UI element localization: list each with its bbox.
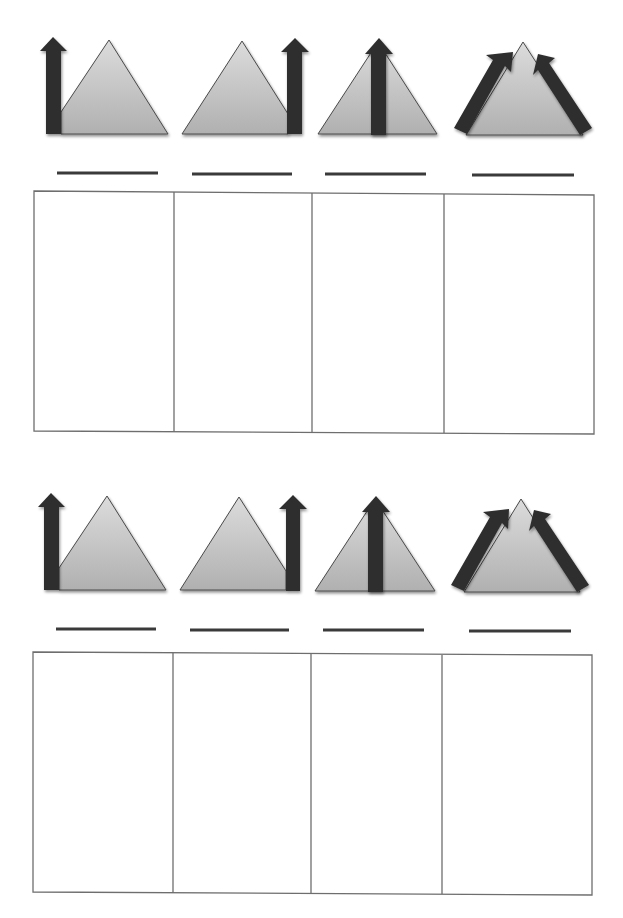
answer-box-3[interactable] [312,655,441,894]
answer-blanks [57,173,574,175]
answer-box-4[interactable] [445,195,593,433]
diagram-arrow-center [318,38,437,135]
diagram-arrow-center [315,496,435,592]
answer-box-2[interactable] [174,654,310,893]
mountain-triangle-icon [59,496,166,590]
answer-box-grid [33,652,592,895]
answer-box-grid [34,191,594,434]
diagram-arrows-both-slopes [454,42,592,135]
diagram-arrow-left-side [40,37,168,134]
mountain-triangle-icon [182,41,288,134]
diagram-arrows-both-slopes [451,499,589,592]
diagram-arrow-right-side [182,38,309,134]
upper-section [34,37,594,434]
worksheet-drawing [0,0,623,918]
mountain-triangle-icon [180,497,286,590]
answer-blanks [56,629,571,631]
worksheet-page [0,0,623,918]
lower-section [33,493,592,895]
answer-box-3[interactable] [313,194,443,433]
diagram-arrow-left-side [38,493,166,590]
mountain-triangle-icon [61,40,168,134]
answer-box-1[interactable] [35,192,173,431]
answer-box-4[interactable] [443,656,591,894]
answer-box-1[interactable] [34,653,172,892]
diagram-arrow-right-side [180,495,307,591]
answer-box-2[interactable] [175,193,311,432]
